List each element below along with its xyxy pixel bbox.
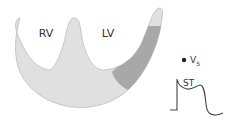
infarct-region [112,26,170,92]
lead-label: V5 [190,55,200,67]
lv-label: LV [102,27,115,40]
rv-label: RV [39,27,54,40]
lead-dot-icon [182,58,186,62]
ecg-trace [170,79,223,115]
heart-cross-section-diagram: RV LV V5 ST [0,0,233,122]
st-label: ST [183,78,195,88]
diagram-canvas: RV LV V5 ST [0,0,233,122]
